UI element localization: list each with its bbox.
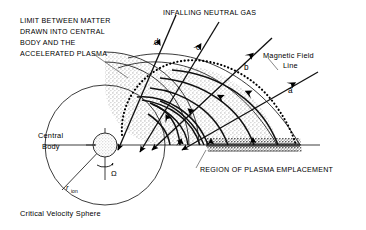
trajectory-label-d: d bbox=[154, 38, 159, 47]
figure-caption: Critical Velocity Sphere bbox=[20, 209, 101, 218]
magnetic-field-line-label-2: Line bbox=[283, 61, 298, 70]
omega-label: Ω bbox=[111, 169, 117, 178]
trajectory-label-b: b bbox=[244, 63, 249, 72]
limit-line-4: ACCELERATED PLASMA bbox=[20, 50, 107, 58]
magnetic-field-line-label-1: Magnetic Field bbox=[263, 51, 314, 60]
limit-line-3: BODY AND THE bbox=[20, 39, 76, 47]
figure-canvas: LIMIT BETWEEN MATTER DRAWN INTO CENTRAL … bbox=[0, 0, 366, 230]
r-ion-subscript: ion bbox=[71, 188, 78, 194]
limit-line-2: DRAWN INTO CENTRAL bbox=[20, 28, 105, 36]
infalling-neutral-gas-label: INFALLING NEUTRAL GAS bbox=[163, 9, 256, 17]
trajectory-label-c: c bbox=[196, 43, 200, 52]
r-ion-base: r bbox=[66, 183, 69, 192]
trajectory-label-a: a bbox=[288, 86, 293, 95]
limit-text-block: LIMIT BETWEEN MATTER DRAWN INTO CENTRAL … bbox=[20, 17, 111, 58]
central-body-circle bbox=[93, 133, 117, 157]
region-plasma-emplacement-label: REGION OF PLASMA EMPLACEMENT bbox=[200, 166, 334, 174]
limit-line-1: LIMIT BETWEEN MATTER bbox=[20, 17, 111, 25]
critical-velocity-sphere-diagram: LIMIT BETWEEN MATTER DRAWN INTO CENTRAL … bbox=[0, 0, 366, 230]
central-body-label-2: Body bbox=[42, 142, 60, 151]
central-body-label-1: Central bbox=[38, 131, 63, 140]
